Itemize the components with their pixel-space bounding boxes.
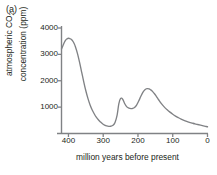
co2-concentration-curve	[62, 38, 208, 126]
plot-area	[0, 0, 217, 175]
x-axis-label: million years before present	[40, 152, 215, 162]
figure-panel-a: (a) atmospheric CO2 concentration (ppm) …	[0, 0, 217, 175]
